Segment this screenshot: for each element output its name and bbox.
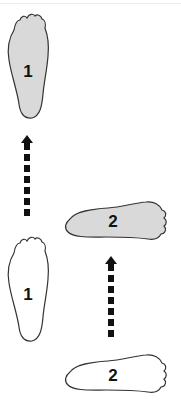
foot-1-filled-label: 1 bbox=[23, 62, 32, 81]
foot-2-filled-label: 2 bbox=[108, 212, 117, 231]
foot-1-outline-label: 1 bbox=[23, 285, 32, 304]
arrow-2-dashed-up bbox=[105, 256, 117, 337]
foot-2-outline-label: 2 bbox=[108, 366, 117, 385]
footstep-diagram: 1 2 1 2 bbox=[0, 0, 181, 407]
arrow-1-dashed-up bbox=[21, 135, 33, 216]
